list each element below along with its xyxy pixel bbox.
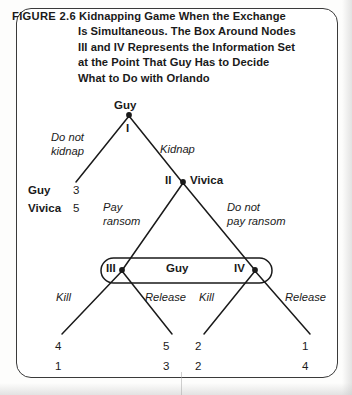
payoff-left-guy-value: 3	[73, 184, 79, 198]
action-do-not-pay-line1: Do not	[227, 201, 285, 215]
node-II-label: II	[165, 174, 171, 188]
figure-number-label: FIGURE 2.6	[12, 10, 76, 22]
figure-caption: FIGURE 2.6 Kidnapping Game When the Exch…	[12, 9, 312, 86]
node-IV-label: IV	[234, 262, 245, 276]
action-label-pay-ransom: Pay ransom	[103, 201, 140, 228]
caption-line-4: at the Point That Guy Has to Decide	[12, 55, 312, 70]
terminal-4-vivica: 4	[302, 356, 322, 376]
node-II-player-label: Vivica	[190, 174, 223, 188]
action-label-release-1: Release	[145, 291, 186, 305]
terminal-payoff-2: 5 3	[163, 336, 183, 376]
node-III-label: III	[106, 262, 116, 276]
terminal-2-guy: 5	[163, 336, 183, 356]
page-gutter-mark	[181, 372, 182, 395]
payoff-left-vivica-name: Vivica	[28, 202, 61, 216]
caption-line-1: FIGURE 2.6 Kidnapping Game When the Exch…	[12, 9, 312, 24]
caption-line-3: III and IV Represents the Information Se…	[12, 40, 312, 55]
action-do-not-kidnap-line1: Do not	[51, 131, 84, 145]
information-set-player-label: Guy	[166, 262, 188, 276]
payoff-left-vivica-value: 5	[73, 202, 79, 216]
page-edge-shadow-right	[342, 0, 352, 395]
action-pay-ransom-line2: ransom	[103, 215, 140, 229]
terminal-1-vivica: 1	[55, 356, 75, 376]
action-label-release-2: Release	[285, 291, 326, 305]
terminal-payoff-1: 4 1	[55, 336, 75, 376]
page-edge-shadow-bottom	[0, 383, 352, 395]
action-label-do-not-pay-ransom: Do not pay ransom	[227, 201, 285, 228]
terminal-1-guy: 4	[55, 336, 75, 356]
action-label-kill-2: Kill	[199, 291, 214, 305]
caption-text-1: Kidnapping Game When the Exchange	[79, 10, 286, 22]
action-label-kidnap: Kidnap	[160, 143, 195, 157]
node-I-label: I	[126, 122, 129, 136]
terminal-3-guy: 2	[195, 336, 215, 356]
terminal-3-vivica: 2	[195, 356, 215, 376]
terminal-4-guy: 1	[302, 336, 322, 356]
terminal-payoff-4: 1 4	[302, 336, 322, 376]
action-label-kill-1: Kill	[56, 291, 71, 305]
action-do-not-kidnap-line2: kidnap	[51, 145, 84, 159]
action-label-do-not-kidnap: Do not kidnap	[51, 131, 84, 158]
terminal-payoff-3: 2 2	[195, 336, 215, 376]
action-do-not-pay-line2: pay ransom	[227, 215, 285, 229]
action-pay-ransom-line1: Pay	[103, 201, 140, 215]
caption-line-5: What to Do with Orlando	[12, 71, 312, 86]
payoff-left-guy-name: Guy	[28, 184, 50, 198]
root-player-label: Guy	[114, 99, 136, 113]
caption-line-2: Is Simultaneous. The Box Around Nodes	[12, 24, 312, 39]
figure-page: FIGURE 2.6 Kidnapping Game When the Exch…	[0, 0, 352, 395]
terminal-2-vivica: 3	[163, 356, 183, 376]
